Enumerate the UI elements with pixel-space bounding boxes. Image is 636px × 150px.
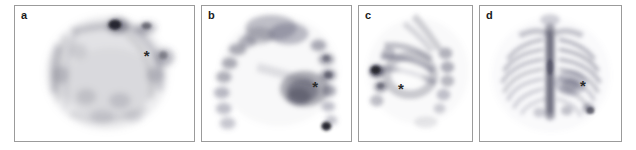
panel-label-c: c [365,10,371,21]
scan-image-a [15,6,194,141]
panel-label-b: b [208,10,215,21]
figure-panel-d: * d [479,5,622,142]
figure-panel-a: * a [14,5,195,142]
lesion-marker-a: * [144,48,150,63]
scan-image-c [359,6,472,141]
panel-label-a: a [21,10,27,21]
scan-image-b [202,6,351,141]
figure-panel-grid: * a [0,0,636,150]
lesion-marker-c: * [398,80,404,95]
figure-panel-b: * b [201,5,352,142]
lesion-marker-d: * [580,77,586,92]
figure-panel-c: * c [358,5,473,142]
panel-label-d: d [486,10,493,21]
scan-image-d [480,6,621,141]
lesion-marker-b: * [312,78,318,93]
